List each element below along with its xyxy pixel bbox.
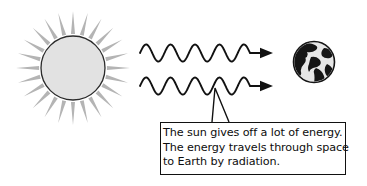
- sun-ray: [16, 66, 39, 70]
- sun-ray: [71, 11, 75, 34]
- callout-pointer: [212, 88, 229, 122]
- sun-disc: [41, 36, 105, 100]
- radiation-diagram: The sun gives off a lot of energy. The e…: [0, 0, 367, 186]
- sun-ray: [105, 53, 128, 61]
- sun-ray: [45, 96, 58, 117]
- callout-line-2: The energy travels through space: [163, 141, 345, 156]
- sun-ray: [107, 66, 130, 70]
- sun-ray: [88, 96, 101, 117]
- sun-ray: [80, 13, 88, 36]
- sun-ray: [58, 13, 66, 36]
- sun-ray: [18, 53, 41, 61]
- sun-ray: [24, 83, 45, 96]
- radiation-wave-lower: [140, 78, 261, 95]
- callout-text: The sun gives off a lot of energy. The e…: [163, 126, 345, 170]
- sun-ray: [101, 83, 122, 96]
- sun-ray: [71, 102, 75, 125]
- sun-ray: [24, 40, 45, 53]
- sun-ray: [105, 75, 128, 83]
- sun-ray: [58, 100, 66, 123]
- earth-landmasses: [293, 43, 334, 90]
- callout-line-3: to Earth by radiation.: [163, 155, 345, 170]
- radiation-wave-lower-arrowhead: [260, 81, 273, 91]
- earth-globe: [293, 42, 335, 91]
- callout-line-1: The sun gives off a lot of energy.: [163, 126, 345, 141]
- sun-ray: [45, 19, 58, 40]
- sun-ray: [101, 40, 122, 53]
- sun-ray: [96, 28, 114, 46]
- radiation-wave-upper: [140, 45, 261, 62]
- sun-ray: [80, 100, 88, 123]
- radiation-wave-upper-arrowhead: [260, 48, 273, 58]
- sun-ray: [33, 28, 51, 46]
- sun-ray: [96, 91, 114, 109]
- sun-ray: [33, 91, 51, 109]
- sun-ray: [18, 75, 41, 83]
- radiation-waves: [140, 45, 273, 95]
- sun-ray: [88, 19, 101, 40]
